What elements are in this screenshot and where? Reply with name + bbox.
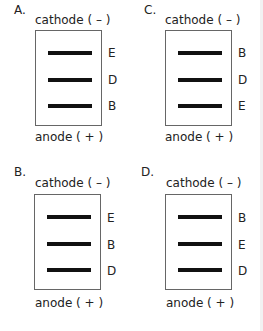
band-label: D bbox=[238, 265, 247, 277]
panel-a: A. cathode ( – ) E D B anode ( + ) bbox=[0, 0, 131, 165]
band bbox=[178, 268, 222, 272]
cathode-label: cathode ( – ) bbox=[35, 14, 110, 26]
cathode-label: cathode ( – ) bbox=[165, 14, 240, 26]
band-label: B bbox=[107, 239, 115, 251]
anode-label: anode ( + ) bbox=[35, 131, 103, 143]
cathode-label: cathode ( – ) bbox=[166, 177, 241, 189]
band-label: E bbox=[107, 212, 115, 224]
panel-label: D. bbox=[141, 166, 154, 178]
panel-c: C. cathode ( – ) B D E anode ( + ) bbox=[131, 0, 262, 165]
page-edge-divider bbox=[260, 0, 263, 331]
band bbox=[178, 78, 222, 82]
band bbox=[178, 215, 222, 219]
band-label: E bbox=[108, 47, 116, 59]
band bbox=[47, 242, 91, 246]
panel-b: B. cathode ( – ) E B D anode ( + ) bbox=[0, 165, 131, 330]
gel-box: E B D bbox=[34, 194, 101, 290]
cathode-label: cathode ( – ) bbox=[35, 177, 110, 189]
band bbox=[178, 104, 222, 108]
band-label: B bbox=[238, 47, 246, 59]
band-label: D bbox=[238, 74, 247, 86]
panel-label: C. bbox=[144, 4, 156, 16]
band-label: E bbox=[238, 239, 246, 251]
gel-box: E D B bbox=[35, 30, 102, 126]
gel-box: B E D bbox=[165, 194, 232, 290]
anode-label: anode ( + ) bbox=[35, 297, 103, 309]
panel-label: B. bbox=[14, 166, 26, 178]
band-label: B bbox=[238, 212, 246, 224]
band bbox=[48, 104, 92, 108]
band bbox=[47, 268, 91, 272]
band-label: B bbox=[108, 100, 116, 112]
panel-d: D. cathode ( – ) B E D anode ( + ) bbox=[131, 165, 262, 330]
band bbox=[178, 242, 222, 246]
band bbox=[48, 78, 92, 82]
band-label: D bbox=[107, 265, 116, 277]
band-label: E bbox=[238, 100, 246, 112]
anode-label: anode ( + ) bbox=[165, 131, 233, 143]
band bbox=[178, 51, 222, 55]
panel-label: A. bbox=[14, 4, 26, 16]
band bbox=[48, 51, 92, 55]
gel-box: B D E bbox=[165, 30, 232, 126]
band-label: D bbox=[108, 74, 117, 86]
anode-label: anode ( + ) bbox=[166, 297, 234, 309]
band bbox=[47, 215, 91, 219]
